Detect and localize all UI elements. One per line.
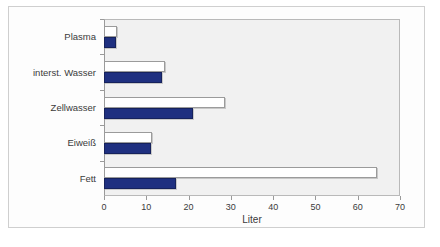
- y-tick-mark-3: [100, 125, 104, 126]
- x-tick-mark-2: [189, 196, 190, 200]
- y-tick-mark-0: [100, 19, 104, 20]
- y-tick-label-3: Eiweiß: [8, 137, 96, 148]
- y-tick-mark-4: [100, 161, 104, 162]
- x-tick-mark-4: [273, 196, 274, 200]
- bar-navy-fett: [104, 178, 176, 189]
- x-tick-label-7: 70: [395, 202, 405, 212]
- x-tick-mark-1: [146, 196, 147, 200]
- bar-group: [104, 132, 400, 158]
- bar-white-zellwasser: [104, 97, 225, 108]
- bar-group: [104, 26, 400, 52]
- x-tick-label-6: 60: [353, 202, 363, 212]
- x-tick-mark-6: [358, 196, 359, 200]
- bar-navy-interst-wasser: [104, 72, 162, 83]
- x-tick-mark-7: [400, 196, 401, 200]
- bar-white-eiwei: [104, 132, 152, 143]
- chart-figure: Plasmainterst. WasserZellwasserEiweißFet…: [0, 0, 440, 247]
- bar-navy-zellwasser: [104, 108, 193, 119]
- bar-white-fett: [104, 167, 377, 178]
- x-tick-label-5: 50: [310, 202, 320, 212]
- bar-white-interst-wasser: [104, 61, 165, 72]
- y-tick-mark-1: [100, 54, 104, 55]
- x-tick-label-0: 0: [101, 202, 106, 212]
- x-tick-mark-5: [315, 196, 316, 200]
- y-tick-label-2: Zellwasser: [8, 102, 96, 113]
- x-axis-title: Liter: [104, 214, 400, 225]
- bar-group: [104, 97, 400, 123]
- bar-navy-plasma: [104, 37, 116, 48]
- x-tick-mark-0: [104, 196, 105, 200]
- bar-group: [104, 167, 400, 193]
- bar-group: [104, 61, 400, 87]
- y-tick-label-4: Fett: [8, 173, 96, 184]
- y-axis-category-labels: Plasmainterst. WasserZellwasserEiweißFet…: [8, 19, 102, 196]
- y-tick-mark-2: [100, 90, 104, 91]
- x-tick-label-1: 10: [141, 202, 151, 212]
- x-tick-label-2: 20: [184, 202, 194, 212]
- x-tick-mark-3: [231, 196, 232, 200]
- bar-white-plasma: [104, 26, 117, 37]
- x-tick-label-3: 30: [226, 202, 236, 212]
- y-tick-label-1: interst. Wasser: [8, 67, 96, 78]
- x-tick-label-4: 40: [268, 202, 278, 212]
- y-tick-label-0: Plasma: [8, 31, 96, 42]
- bar-navy-eiwei: [104, 143, 151, 154]
